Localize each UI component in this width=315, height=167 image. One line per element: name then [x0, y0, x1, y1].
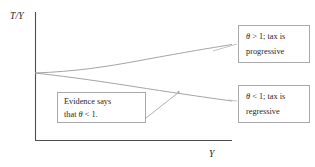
callout-evidence-line1: Evidence says — [64, 95, 140, 108]
callout-evidence: Evidence says that θ < 1. — [57, 92, 146, 123]
callout-regressive-line1: θ < 1; tax is — [246, 89, 303, 104]
callout-evidence-line2-prefix: that — [64, 110, 79, 119]
callout-progressive-line1-rest: > 1; tax is — [250, 32, 285, 41]
callout-evidence-line2: that θ < 1. — [64, 108, 140, 121]
progressive-curve — [35, 45, 232, 74]
evidence-leader-line — [146, 93, 179, 119]
progressive-leader-line — [213, 44, 237, 51]
callout-regressive-line2: regressive — [246, 104, 303, 119]
callout-regressive: θ < 1; tax is regressive — [238, 85, 310, 123]
x-axis-label: Y — [209, 150, 214, 160]
callout-evidence-line2-rest: < 1. — [83, 110, 98, 119]
callout-regressive-line1-rest: < 1; tax is — [250, 92, 285, 101]
evidence-leader-endpoint — [177, 91, 179, 93]
callout-progressive: θ > 1; tax is progressive — [238, 25, 310, 63]
figure-canvas: T/Y Y θ > 1; tax is progressive θ < 1; t… — [0, 0, 315, 167]
callout-progressive-line2: progressive — [246, 44, 303, 59]
y-axis-label: T/Y — [10, 12, 24, 22]
callout-progressive-line1: θ > 1; tax is — [246, 29, 303, 44]
